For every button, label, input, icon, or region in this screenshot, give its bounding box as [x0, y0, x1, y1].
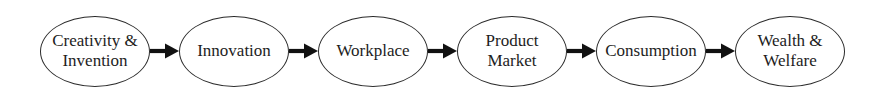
node-ellipse-wealth-welfare: Wealth & Welfare: [735, 16, 845, 87]
right-arrow-icon: [706, 43, 735, 59]
node-ellipse-creativity-invention: Creativity & Invention: [40, 16, 150, 87]
node-label: Creativity & Invention: [47, 31, 143, 72]
node-ellipse-innovation: Innovation: [179, 16, 289, 87]
node-label: Innovation: [197, 41, 271, 61]
node-ellipse-workplace: Workplace: [318, 16, 428, 87]
right-arrow-icon: [150, 43, 179, 59]
right-arrow-icon: [289, 43, 318, 59]
page-canvas: Creativity & Invention Innovation Workpl…: [0, 0, 885, 102]
node-label: Product Market: [464, 31, 560, 72]
right-arrow-icon: [567, 43, 596, 59]
node-label: Consumption: [605, 41, 697, 61]
node-ellipse-consumption: Consumption: [596, 16, 706, 87]
node-label: Wealth & Welfare: [742, 31, 838, 72]
node-ellipse-product-market: Product Market: [457, 16, 567, 87]
flow-diagram: Creativity & Invention Innovation Workpl…: [0, 0, 885, 102]
node-label: Workplace: [336, 41, 409, 61]
right-arrow-icon: [428, 43, 457, 59]
